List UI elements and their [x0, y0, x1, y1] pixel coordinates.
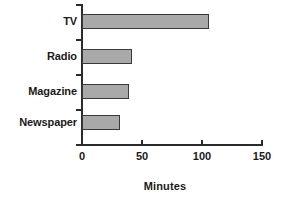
x-axis-tick-label-0: 0: [62, 150, 102, 162]
x-axis-tick: [141, 140, 143, 145]
x-axis-tick: [261, 140, 263, 145]
bar-chart: TV Radio Magazine Newspaper 0 50 100 150…: [0, 0, 290, 203]
bar-radio: [82, 49, 132, 64]
y-axis-tick: [76, 4, 81, 6]
y-axis-label-tv: TV: [63, 16, 77, 27]
bar-magazine: [82, 84, 129, 99]
x-axis-tick: [81, 140, 83, 145]
y-axis-label-newspaper: Newspaper: [19, 117, 77, 128]
bar-newspaper: [82, 115, 120, 130]
y-axis-label-magazine: Magazine: [28, 86, 77, 97]
x-axis-tick-label-150: 150: [242, 150, 282, 162]
x-axis-tick: [201, 140, 203, 145]
x-axis-line: [81, 144, 263, 146]
bar-tv: [82, 14, 209, 29]
y-axis-label-radio: Radio: [47, 51, 77, 62]
y-axis-tick: [76, 109, 81, 111]
x-axis-title: Minutes: [0, 180, 290, 192]
x-axis-tick-label-50: 50: [122, 150, 162, 162]
y-axis-tick: [76, 74, 81, 76]
x-axis-title-text: Minutes: [144, 180, 186, 192]
x-axis-tick-label-100: 100: [182, 150, 222, 162]
y-axis-tick: [76, 39, 81, 41]
